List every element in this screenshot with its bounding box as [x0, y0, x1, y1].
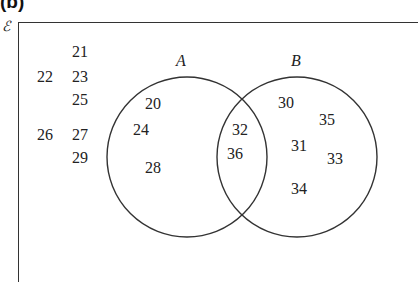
element-outside: 26 — [37, 127, 53, 143]
element-b-only: 30 — [278, 95, 294, 111]
element-b-only: 35 — [319, 112, 335, 128]
element-a-and-b: 32 — [232, 122, 248, 138]
element-outside: 21 — [72, 44, 88, 60]
circle-a — [107, 77, 267, 237]
element-outside: 23 — [72, 69, 88, 85]
element-outside: 25 — [72, 92, 88, 108]
set-label-b: B — [291, 53, 301, 69]
set-label-a: A — [176, 53, 186, 69]
element-outside: 27 — [72, 127, 88, 143]
element-b-only: 31 — [291, 138, 307, 154]
element-outside: 29 — [72, 150, 88, 166]
element-a-only: 24 — [133, 122, 149, 138]
element-a-only: 28 — [145, 160, 161, 176]
element-a-and-b: 36 — [227, 146, 243, 162]
element-outside: 22 — [37, 69, 53, 85]
element-b-only: 34 — [291, 181, 307, 197]
element-b-only: 33 — [327, 151, 343, 167]
element-a-only: 20 — [145, 96, 161, 112]
